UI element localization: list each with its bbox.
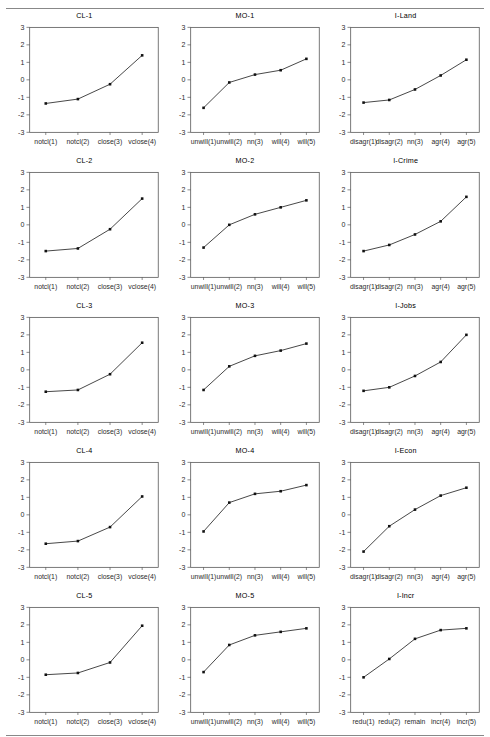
series-line bbox=[46, 198, 142, 250]
data-point-marker bbox=[109, 83, 112, 86]
x-tick-label: disagr(1) bbox=[350, 138, 377, 146]
y-tick-label: -1 bbox=[339, 384, 345, 391]
chart-svg: 3210-1-2-3notcl(1)notcl(2)close(3)vclose… bbox=[4, 22, 165, 156]
data-point-marker bbox=[414, 233, 417, 236]
x-tick-label: notcl(1) bbox=[34, 283, 57, 291]
y-tick-label: 3 bbox=[181, 24, 185, 31]
x-tick-label: unwill(1) bbox=[190, 428, 215, 436]
y-tick-label: -2 bbox=[179, 256, 185, 263]
data-point-marker bbox=[388, 657, 391, 660]
data-point-marker bbox=[388, 244, 391, 247]
chart-svg: 3210-1-2-3notcl(1)notcl(2)close(3)vclose… bbox=[4, 457, 165, 591]
plot-area: 3210-1-2-3unwill(1)unwill(2)nn(3)will(4)… bbox=[165, 602, 326, 736]
series-line bbox=[203, 485, 306, 531]
plot-area: 3210-1-2-3unwill(1)unwill(2)nn(3)will(4)… bbox=[165, 312, 326, 446]
chart-panel: I-Land3210-1-2-3disagr(1)disagr(2)nn(3)a… bbox=[325, 11, 486, 156]
series-line bbox=[46, 625, 142, 674]
x-tick-label: notcl(2) bbox=[66, 283, 89, 291]
y-tick-label: -3 bbox=[18, 419, 24, 426]
chart-title: CL-5 bbox=[4, 591, 165, 602]
data-point-marker bbox=[77, 539, 80, 542]
x-tick-label: nn(3) bbox=[247, 718, 263, 726]
plot-area: 3210-1-2-3disagr(1)disagr(2)nn(3)agr(4)a… bbox=[325, 167, 486, 301]
y-tick-label: 3 bbox=[342, 603, 346, 610]
data-point-marker bbox=[44, 673, 47, 676]
x-tick-label: unwill(2) bbox=[216, 718, 241, 726]
y-tick-label: -1 bbox=[18, 529, 24, 536]
x-tick-label: notcl(1) bbox=[34, 428, 57, 436]
y-tick-label: 1 bbox=[181, 59, 185, 66]
x-tick-label: vclose(4) bbox=[128, 283, 156, 291]
x-tick-label: agr(4) bbox=[432, 138, 450, 146]
series-line bbox=[364, 60, 467, 103]
data-point-marker bbox=[414, 637, 417, 640]
y-tick-label: 0 bbox=[20, 511, 24, 518]
plot-frame bbox=[30, 172, 159, 277]
data-point-marker bbox=[305, 627, 308, 630]
series-line bbox=[46, 55, 142, 103]
y-tick-label: -1 bbox=[339, 94, 345, 101]
y-tick-label: 3 bbox=[181, 314, 185, 321]
x-tick-label: disagr(2) bbox=[376, 428, 403, 436]
y-tick-label: -3 bbox=[18, 564, 24, 571]
data-point-marker bbox=[279, 69, 282, 72]
x-tick-label: will(4) bbox=[270, 283, 289, 291]
y-tick-label: -3 bbox=[18, 708, 24, 715]
chart-title: CL-4 bbox=[4, 446, 165, 457]
data-point-marker bbox=[109, 525, 112, 528]
y-tick-label: -3 bbox=[339, 708, 345, 715]
y-tick-label: -1 bbox=[339, 529, 345, 536]
data-point-marker bbox=[77, 388, 80, 391]
y-tick-label: 1 bbox=[20, 59, 24, 66]
chart-panel: CL-33210-1-2-3notcl(1)notcl(2)close(3)vc… bbox=[4, 301, 165, 446]
chart-svg: 3210-1-2-3disagr(1)disagr(2)nn(3)agr(4)a… bbox=[325, 22, 486, 156]
y-tick-label: 0 bbox=[342, 76, 346, 83]
data-point-marker bbox=[228, 81, 231, 84]
y-tick-label: 1 bbox=[342, 59, 346, 66]
y-tick-label: -1 bbox=[339, 673, 345, 680]
x-tick-label: close(3) bbox=[98, 283, 122, 291]
x-tick-label: agr(4) bbox=[432, 428, 450, 436]
x-tick-label: unwill(1) bbox=[190, 718, 215, 726]
y-tick-label: -3 bbox=[339, 129, 345, 136]
x-tick-label: unwill(2) bbox=[216, 138, 241, 146]
y-tick-label: 2 bbox=[342, 621, 346, 628]
plot-frame bbox=[190, 317, 319, 422]
chart-panel: I-Econ3210-1-2-3disagr(1)disagr(2)nn(3)a… bbox=[325, 446, 486, 591]
y-tick-label: -3 bbox=[339, 564, 345, 571]
y-tick-label: 0 bbox=[342, 221, 346, 228]
data-point-marker bbox=[44, 390, 47, 393]
data-point-marker bbox=[440, 628, 443, 631]
x-tick-label: nn(3) bbox=[407, 573, 423, 581]
x-tick-label: close(3) bbox=[98, 138, 122, 146]
plot-frame bbox=[190, 172, 319, 277]
x-tick-label: will(5) bbox=[296, 283, 315, 291]
y-tick-label: -1 bbox=[179, 673, 185, 680]
y-tick-label: -3 bbox=[18, 274, 24, 281]
series-line bbox=[364, 628, 467, 677]
chart-svg: 3210-1-2-3notcl(1)notcl(2)close(3)vclose… bbox=[4, 312, 165, 446]
plot-area: 3210-1-2-3disagr(1)disagr(2)nn(3)agr(4)a… bbox=[325, 457, 486, 591]
y-tick-label: 3 bbox=[181, 169, 185, 176]
y-tick-label: -3 bbox=[179, 129, 185, 136]
y-tick-label: -3 bbox=[179, 419, 185, 426]
chart-svg: 3210-1-2-3redu(1)redu(2)remainincr(4)inc… bbox=[325, 602, 486, 736]
chart-title: I-Land bbox=[325, 11, 486, 22]
data-point-marker bbox=[141, 495, 144, 498]
data-point-marker bbox=[414, 508, 417, 511]
chart-title: I-Econ bbox=[325, 446, 486, 457]
y-tick-label: -3 bbox=[179, 708, 185, 715]
y-tick-label: 2 bbox=[181, 41, 185, 48]
series-line bbox=[203, 343, 306, 389]
chart-svg: 3210-1-2-3unwill(1)unwill(2)nn(3)will(4)… bbox=[165, 312, 326, 446]
chart-title: I-Jobs bbox=[325, 301, 486, 312]
x-tick-label: agr(5) bbox=[458, 138, 476, 146]
y-tick-label: 3 bbox=[181, 603, 185, 610]
y-tick-label: -2 bbox=[179, 111, 185, 118]
x-tick-label: redu(1) bbox=[353, 718, 375, 726]
chart-panel: I-Incr3210-1-2-3redu(1)redu(2)remainincr… bbox=[325, 591, 486, 736]
y-tick-label: 3 bbox=[20, 603, 24, 610]
x-tick-label: will(5) bbox=[296, 718, 315, 726]
y-tick-label: -3 bbox=[339, 419, 345, 426]
data-point-marker bbox=[363, 676, 366, 679]
